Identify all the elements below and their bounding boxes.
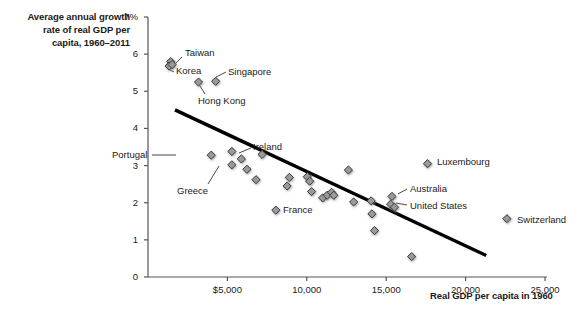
annotation-leader-line <box>396 203 407 205</box>
data-point-marker[interactable] <box>194 78 202 86</box>
data-point-marker[interactable] <box>272 206 280 214</box>
data-point-marker[interactable] <box>408 252 416 260</box>
y-axis-tick-label: 3 <box>112 161 138 171</box>
annotation-leader-line <box>216 72 226 77</box>
data-point-label: Portugal <box>112 150 147 160</box>
data-point-label: Luxembourg <box>437 157 490 167</box>
data-point-label: United States <box>410 201 467 211</box>
annotation-leader-line <box>170 70 174 72</box>
annotation-leader-line <box>239 148 251 153</box>
y-axis-tick-label: 0 <box>112 272 138 282</box>
data-point-marker[interactable] <box>388 192 396 200</box>
y-axis-title-line-1: Average annual growth <box>2 10 130 23</box>
data-point-marker[interactable] <box>368 210 376 218</box>
data-point-marker[interactable] <box>285 173 293 181</box>
data-point-label: Korea <box>176 66 201 76</box>
x-axis-tick-label: 15,000 <box>356 285 416 295</box>
data-point-marker[interactable] <box>243 165 251 173</box>
annotation-leader-line <box>200 86 205 94</box>
data-point-label: Greece <box>177 186 208 196</box>
y-axis-title-line-3: capita, 1960–2011 <box>2 36 130 49</box>
data-point-label: Singapore <box>228 67 271 77</box>
data-point-label: France <box>283 205 313 215</box>
y-axis-tick-label: 2 <box>112 198 138 208</box>
data-point-marker[interactable] <box>503 215 511 223</box>
data-point-marker[interactable] <box>370 226 378 234</box>
x-axis-tick-label: 10,000 <box>277 285 337 295</box>
x-axis-tick-label: $5,000 <box>197 285 257 295</box>
x-axis-tick-label: 20,000 <box>436 285 496 295</box>
data-point-marker[interactable] <box>252 176 260 184</box>
data-point-label: Australia <box>410 184 447 194</box>
annotation-leader-line <box>176 57 182 63</box>
y-axis-tick-label: 5 <box>112 86 138 96</box>
y-axis-tick-label: 4 <box>112 123 138 133</box>
y-axis-tick-label: 7% <box>112 12 138 22</box>
data-point-label: Taiwan <box>185 48 215 58</box>
data-point-label: Hong Kong <box>198 96 246 106</box>
scatter-chart-figure: Average annual growth rate of real GDP p… <box>0 0 580 314</box>
annotation-leader-line <box>398 189 407 194</box>
y-axis-tick-label: 6 <box>112 49 138 59</box>
data-point-marker[interactable] <box>237 155 245 163</box>
y-axis-title: Average annual growth rate of real GDP p… <box>2 10 130 49</box>
data-point-marker[interactable] <box>228 147 236 155</box>
data-point-marker[interactable] <box>350 198 358 206</box>
data-point-marker[interactable] <box>212 77 220 85</box>
data-point-marker[interactable] <box>228 161 236 169</box>
data-point-marker[interactable] <box>307 187 315 195</box>
data-point-marker[interactable] <box>283 182 291 190</box>
annotation-leader-line <box>208 166 219 184</box>
data-point-marker[interactable] <box>207 151 215 159</box>
data-point-marker[interactable] <box>423 160 431 168</box>
x-axis-tick-label: 25,000 <box>515 285 575 295</box>
data-point-marker[interactable] <box>344 166 352 174</box>
data-point-label: Switzerland <box>517 215 566 225</box>
y-axis-tick-label: 1 <box>112 235 138 245</box>
y-axis-title-line-2: rate of real GDP per <box>2 23 130 36</box>
data-point-label: Ireland <box>253 142 282 152</box>
